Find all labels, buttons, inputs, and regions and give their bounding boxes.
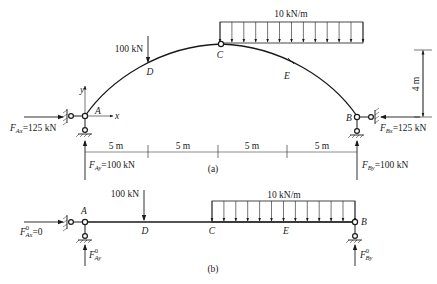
roller-support-b-b xyxy=(346,219,362,243)
distributed-load-label-a: 10 kN/m xyxy=(274,9,308,19)
x-axis-label: x xyxy=(114,111,120,121)
reaction-fby0-label: F0By xyxy=(359,247,373,261)
reaction-fay0: F0Ay xyxy=(85,245,101,266)
point-b-label-b: B xyxy=(361,217,367,227)
pin-support-a-b xyxy=(63,215,92,243)
y-axis-label: y xyxy=(79,85,85,95)
distributed-load-a: 10 kN/m xyxy=(220,9,363,43)
reaction-fby-label: FBy=100 kN xyxy=(361,160,408,171)
figure-a: 10 kN/m C D E A B 100 kN y x xyxy=(9,9,432,180)
point-load-d-a: 100 kN xyxy=(115,36,148,62)
caption-a: (a) xyxy=(208,164,219,175)
point-a-label-b: A xyxy=(80,206,87,216)
span-dim-4: 5 m xyxy=(315,141,330,151)
point-d-label-a: D xyxy=(146,67,154,77)
figure-b: 10 kN/m 100 kN A D C E B xyxy=(19,189,373,275)
span-dim-3: 5 m xyxy=(245,141,260,151)
point-e-label-a: E xyxy=(283,71,290,81)
section-mark-e xyxy=(288,58,294,64)
span-dimensions: 5 m 5 m 5 m 5 m xyxy=(85,141,357,158)
rise-dimension: 4 m xyxy=(411,50,432,117)
point-d-label-b: D xyxy=(141,226,149,236)
rise-dimension-label: 4 m xyxy=(411,76,421,91)
point-b-label-a: B xyxy=(346,113,352,123)
point-c-label-a: C xyxy=(217,50,224,60)
pin-support-b xyxy=(348,108,379,138)
point-load-d-b: 100 kN xyxy=(111,189,144,220)
reaction-fay-label: FAy=100 kN xyxy=(88,160,135,171)
point-a-label-a: A xyxy=(94,106,101,116)
point-load-label-b: 100 kN xyxy=(111,189,139,199)
reaction-fby: FBy=100 kN xyxy=(357,141,408,180)
reaction-fax0: F0Ax=0 xyxy=(19,222,63,238)
reaction-fax-label: FAx=125 kN xyxy=(9,123,56,134)
reaction-fax0-label: F0Ax=0 xyxy=(19,224,43,238)
reaction-fbx: FBx=125 kN xyxy=(379,117,426,134)
three-hinged-arch-diagram: 10 kN/m C D E A B 100 kN y x xyxy=(0,0,437,284)
point-c-label-b: C xyxy=(209,226,216,236)
reaction-fay0-label: F0Ay xyxy=(88,247,101,261)
span-dim-2: 5 m xyxy=(176,141,191,151)
reaction-fax: FAx=125 kN xyxy=(9,117,63,134)
caption-b: (b) xyxy=(207,264,218,275)
point-e-label-b: E xyxy=(282,226,289,236)
distributed-load-label-b: 10 kN/m xyxy=(267,190,301,200)
distributed-load-b: 10 kN/m xyxy=(212,190,355,222)
point-load-label-a: 100 kN xyxy=(115,44,143,54)
reaction-fbx-label: FBx=125 kN xyxy=(379,123,426,134)
reaction-fby0: F0By xyxy=(355,245,373,266)
span-dim-1: 5 m xyxy=(109,141,124,151)
hinge-c xyxy=(218,41,223,46)
